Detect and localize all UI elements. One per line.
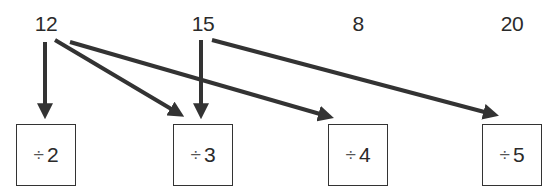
arrow-12-to-div4 [70, 42, 327, 116]
divide-by-2-box: ÷ 2 [16, 124, 76, 186]
divide-by-4-box: ÷ 4 [328, 124, 388, 186]
divisor: 4 [359, 143, 371, 167]
number-20: 20 [501, 12, 523, 36]
divide-icon: ÷ [499, 144, 509, 166]
divide-by-5-box: ÷ 5 [482, 124, 542, 186]
divisor: 5 [513, 143, 525, 167]
number-8: 8 [352, 12, 363, 36]
divide-icon: ÷ [345, 144, 355, 166]
arrow-15-to-div5 [212, 40, 492, 114]
number-15: 15 [192, 12, 214, 36]
arrow-12-to-div3 [55, 40, 178, 113]
divide-icon: ÷ [190, 144, 200, 166]
arrows-layer [0, 0, 549, 194]
divide-by-3-box: ÷ 3 [173, 124, 233, 186]
divisor: 2 [47, 143, 59, 167]
divide-icon: ÷ [33, 144, 43, 166]
divisor: 3 [204, 143, 216, 167]
number-12: 12 [35, 12, 57, 36]
